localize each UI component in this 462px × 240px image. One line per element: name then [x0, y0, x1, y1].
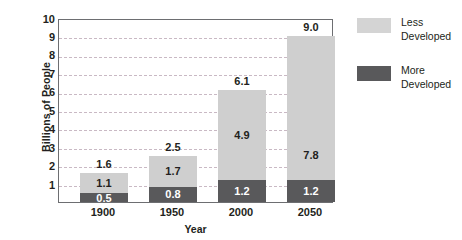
y-tick-1: 1	[33, 180, 55, 191]
bar-segment-less-developed-2050[interactable]: 7.8	[287, 36, 335, 180]
bar-label-less-1950: 1.7	[149, 165, 197, 177]
light-gray-swatch-icon	[357, 18, 391, 33]
plot-area: 0.5 1.1 1.6 0.8 1.7 2.5 1.2	[58, 19, 333, 203]
bar-group-1900[interactable]: 0.5 1.1 1.6	[80, 173, 128, 202]
bar-group-2050[interactable]: 1.2 7.8 9.0	[287, 36, 335, 202]
y-tick-10: 10	[33, 14, 55, 25]
bar-label-more-1950: 0.8	[149, 188, 197, 200]
bar-label-less-2050: 7.8	[287, 149, 335, 161]
legend-label-more-line1: More	[401, 64, 462, 78]
bar-label-less-1900: 1.1	[80, 177, 128, 189]
legend-item-more-developed[interactable]: More Developed	[357, 64, 462, 104]
bar-series-container: 0.5 1.1 1.6 0.8 1.7 2.5 1.2	[59, 20, 332, 202]
bar-segment-less-developed-1950[interactable]: 1.7	[149, 156, 197, 187]
legend-item-less-developed[interactable]: Less Developed	[357, 16, 462, 56]
bar-total-label-2000: 6.1	[218, 75, 266, 87]
y-tick-7: 7	[33, 69, 55, 80]
y-tick-2: 2	[33, 161, 55, 172]
population-stacked-bar-chart: Billions of People 10 9 8 7 6 5 4 3 2 1 …	[0, 0, 462, 240]
bar-total-label-1900: 1.6	[80, 158, 128, 170]
y-axis-tick-labels: 10 9 8 7 6 5 4 3 2 1	[33, 0, 55, 240]
y-tick-9: 9	[33, 32, 55, 43]
bar-segment-more-developed-1950[interactable]: 0.8	[149, 187, 197, 202]
x-axis-title: Year	[58, 223, 333, 235]
bar-label-less-2000: 4.9	[218, 129, 266, 141]
y-tick-8: 8	[33, 50, 55, 61]
x-tick-2000: 2000	[217, 206, 265, 219]
legend-label-less-developed: Less Developed	[401, 16, 462, 43]
bar-label-more-2050: 1.2	[287, 185, 335, 197]
x-tick-1900: 1900	[79, 206, 127, 219]
y-tick-4: 4	[33, 124, 55, 135]
bar-label-more-2000: 1.2	[218, 185, 266, 197]
bar-segment-more-developed-2000[interactable]: 1.2	[218, 180, 266, 202]
x-axis-tick-labels: 1900 1950 2000 2050	[58, 206, 333, 222]
x-tick-2050: 2050	[286, 206, 334, 219]
y-tick-5: 5	[33, 106, 55, 117]
legend-label-less-line2: Developed	[401, 30, 462, 44]
legend-label-less-line1: Less	[401, 16, 462, 30]
bar-segment-more-developed-1900[interactable]: 0.5	[80, 193, 128, 202]
bar-segment-more-developed-2050[interactable]: 1.2	[287, 180, 335, 202]
bar-total-label-2050: 9.0	[287, 21, 335, 33]
x-tick-1950: 1950	[148, 206, 196, 219]
dark-gray-swatch-icon	[357, 66, 391, 81]
bar-label-more-1900: 0.5	[80, 192, 128, 204]
bar-total-label-1950: 2.5	[149, 141, 197, 153]
legend-label-more-developed: More Developed	[401, 64, 462, 91]
bar-segment-less-developed-1900[interactable]: 1.1	[80, 173, 128, 193]
y-tick-3: 3	[33, 143, 55, 154]
bar-group-2000[interactable]: 1.2 4.9 6.1	[218, 90, 266, 202]
bar-group-1950[interactable]: 0.8 1.7 2.5	[149, 156, 197, 202]
y-tick-6: 6	[33, 87, 55, 98]
bar-segment-less-developed-2000[interactable]: 4.9	[218, 90, 266, 180]
legend-label-more-line2: Developed	[401, 78, 462, 92]
